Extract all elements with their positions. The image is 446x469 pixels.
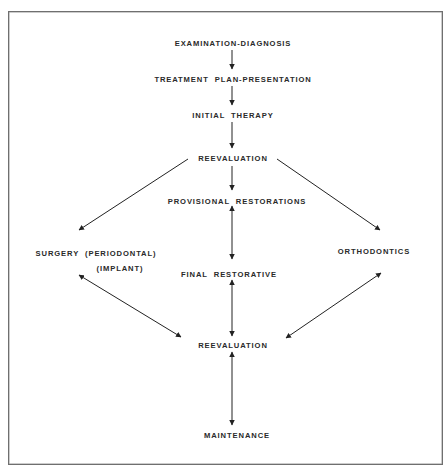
node-maintenance: MAINTENANCE: [204, 431, 270, 440]
node-initial-therapy: INITIAL THERAPY: [192, 111, 273, 120]
node-surgery-implant: (IMPLANT): [97, 264, 144, 273]
arrow-reevaluation_1-to-surgery: [79, 159, 188, 230]
node-reevaluation-second: REEVALUATION: [198, 341, 268, 350]
node-final-restorative: FINAL RESTORATIVE: [181, 270, 277, 279]
node-orthodontics: ORTHODONTICS: [338, 247, 410, 256]
arrow-surgery-to-reevaluation_2: [79, 275, 181, 337]
node-examination-diagnosis: EXAMINATION-DIAGNOSIS: [175, 39, 292, 48]
node-reevaluation-first: REEVALUATION: [198, 154, 268, 163]
node-provisional-restorations: PROVISIONAL RESTORATIONS: [168, 197, 307, 206]
node-treatment-plan-presentation: TREATMENT PLAN-PRESENTATION: [154, 75, 311, 84]
node-surgery-periodontal: SURGERY (PERIODONTAL): [36, 249, 157, 258]
flowchart-arrows: [0, 0, 446, 469]
arrow-orthodontics-to-reevaluation_2: [286, 273, 381, 338]
arrow-reevaluation_1-to-orthodontics: [277, 159, 380, 230]
arrow-group: [79, 50, 381, 425]
